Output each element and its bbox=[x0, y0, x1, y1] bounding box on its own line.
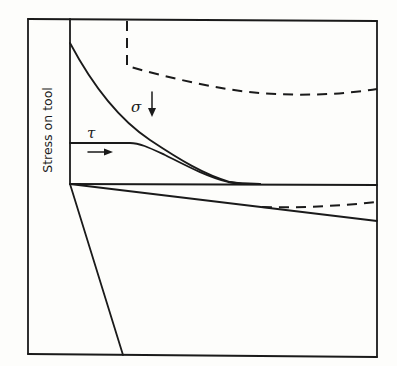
arrow-down-icon bbox=[148, 92, 156, 117]
tool-clearance-line bbox=[70, 184, 123, 355]
frame-bottom bbox=[28, 354, 377, 357]
sigma-label: σ bbox=[131, 98, 142, 116]
lower-dashed-segment bbox=[262, 202, 377, 207]
frame-top bbox=[28, 19, 377, 21]
tool-flank-line bbox=[70, 184, 377, 221]
arrow-right-icon bbox=[88, 149, 113, 156]
stress-distribution-diagram: σ τ Stress on tool bbox=[0, 0, 397, 366]
normal-stress-curve bbox=[70, 43, 260, 184]
baseline bbox=[70, 184, 377, 185]
y-axis-label: Stress on tool bbox=[40, 87, 55, 173]
tau-label: τ bbox=[87, 124, 96, 142]
outer-frame bbox=[28, 19, 377, 357]
upper-dashed-curve bbox=[127, 21, 377, 95]
